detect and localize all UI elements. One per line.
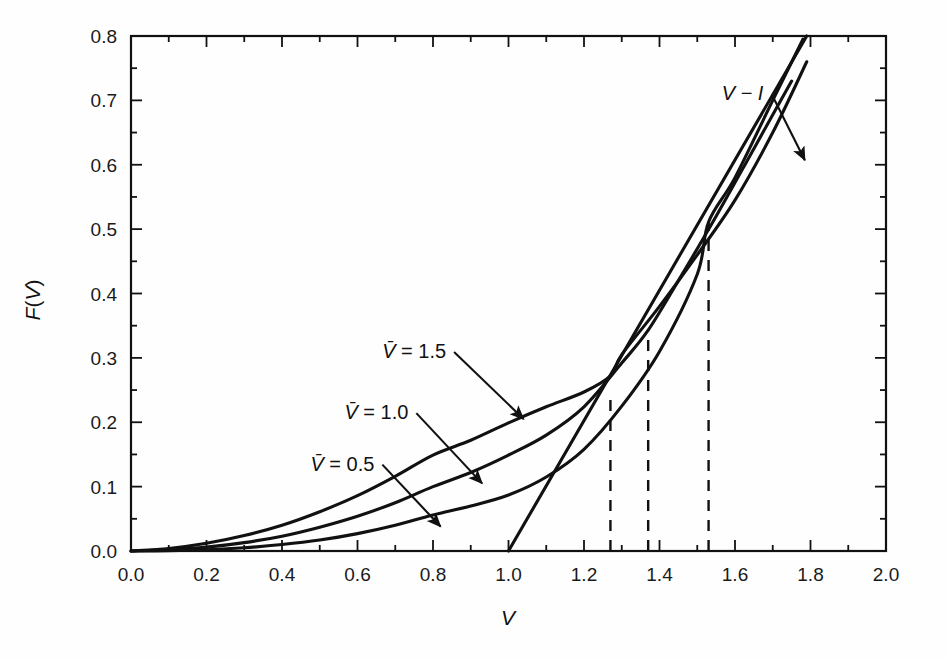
x-tick-label: 1.8 [797,564,823,585]
svg-text:F(V): F(V) [21,280,44,321]
x-tick-label: 1.2 [571,564,597,585]
y-tick-label: 0.2 [91,412,117,433]
vbar-10-label-arrow [416,413,482,483]
vbar-05-label-text: V̄ = 0.5 [310,453,374,475]
annotations-layer: V − IV̄ = 1.5V̄ = 1.0V̄ = 0.5 [310,82,804,526]
chart-plot: 0.00.20.40.60.81.01.21.41.61.82.00.00.10… [0,0,947,659]
y-tick-label: 0.5 [91,219,117,240]
y-tick-label: 0.3 [91,348,117,369]
vbar-15-label: V̄ = 1.5 [382,340,446,362]
x-tick-label: 0.4 [269,564,296,585]
y-axis-title-paren-open: ( [21,301,44,308]
vbar-05-label: V̄ = 0.5 [310,453,374,475]
y-tick-label: 0.0 [91,541,117,562]
vbar-05-label-arrow [382,465,440,527]
x-tick-label: 1.6 [722,564,748,585]
x-tick-label: 0.6 [344,564,370,585]
y-axis-title: F(V) [21,280,44,321]
y-tick-label: 0.8 [91,26,117,47]
dashed-verticals-layer [610,222,708,551]
x-tick-label: 2.0 [873,564,899,585]
data-curve [131,62,807,551]
data-curve [509,36,807,551]
x-axis-title: V [501,606,517,629]
y-tick-label: 0.7 [91,90,117,111]
vbar-15-label-arrow [454,352,523,419]
x-tick-label: 0.8 [420,564,446,585]
y-tick-label: 0.4 [91,284,118,305]
vbar-10-label-text: V̄ = 1.0 [344,401,408,423]
vbar-10-label: V̄ = 1.0 [344,401,408,423]
figure-canvas: 0.00.20.40.60.81.01.21.41.61.82.00.00.10… [0,0,947,659]
y-tick-label: 0.1 [91,477,117,498]
x-tick-label: 0.0 [118,564,144,585]
data-curves-layer [131,36,807,551]
vi-label-text: V − I [722,82,764,104]
vbar-15-label-text: V̄ = 1.5 [382,340,446,362]
vi-label: V − I [722,82,764,104]
x-tick-label: 0.2 [193,564,219,585]
y-tick-label: 0.6 [91,155,117,176]
x-tick-label: 1.4 [646,564,673,585]
data-curve [131,81,792,551]
y-axis-title-paren-close: ) [21,280,44,287]
x-tick-label: 1.0 [495,564,521,585]
tick-labels-layer: 0.00.20.40.60.81.01.21.41.61.82.00.00.10… [91,26,900,585]
